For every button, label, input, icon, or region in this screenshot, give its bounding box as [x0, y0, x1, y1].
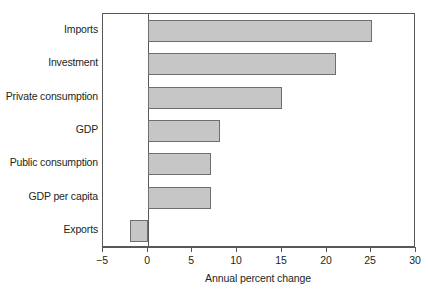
bar: [148, 187, 211, 209]
x-tick-label: 25: [350, 254, 390, 266]
category-label: Investment: [0, 57, 98, 68]
category-label: GDP: [0, 124, 98, 135]
x-tick-label: 20: [306, 254, 346, 266]
x-tick-label: 0: [127, 254, 167, 266]
category-label: Public consumption: [0, 157, 98, 168]
x-tick-mark: [415, 247, 416, 252]
category-label: Imports: [0, 24, 98, 35]
bar-chart: ImportsInvestmentPrivate consumptionGDPP…: [0, 0, 428, 299]
x-axis-line: [102, 247, 415, 248]
category-label: Private consumption: [0, 91, 98, 102]
x-tick-mark: [102, 247, 103, 252]
bar: [148, 120, 220, 142]
bar: [148, 87, 282, 109]
category-label: GDP per capita: [0, 191, 98, 202]
x-tick-mark: [370, 247, 371, 252]
x-tick-label: 30: [395, 254, 428, 266]
plot-area: [102, 13, 415, 247]
bar: [148, 20, 372, 42]
x-tick-label: 5: [171, 254, 211, 266]
x-axis-title: Annual percent change: [0, 272, 428, 284]
x-tick-label: 15: [261, 254, 301, 266]
x-tick-mark: [191, 247, 192, 252]
x-tick-mark: [147, 247, 148, 252]
x-tick-label: −5: [82, 254, 122, 266]
x-tick-mark: [236, 247, 237, 252]
x-tick-label: 10: [216, 254, 256, 266]
x-tick-mark: [326, 247, 327, 252]
bar: [148, 53, 336, 75]
x-axis-title-text: Annual percent change: [205, 272, 311, 284]
category-axis-labels: ImportsInvestmentPrivate consumptionGDPP…: [0, 13, 98, 247]
bar: [148, 153, 211, 175]
bar: [130, 220, 148, 242]
category-label: Exports: [0, 224, 98, 235]
bars-layer: [103, 14, 416, 248]
x-tick-mark: [281, 247, 282, 252]
